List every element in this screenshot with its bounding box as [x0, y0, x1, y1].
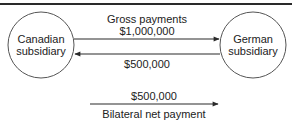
- right-node-label-1: German: [220, 33, 286, 45]
- left-node-label-1: Canadian: [8, 33, 74, 45]
- left-node-label-2: subsidiary: [8, 45, 74, 57]
- right-node-label-2: subsidiary: [220, 45, 286, 57]
- gross-forward-amount: $1,000,000: [97, 25, 197, 37]
- net-payment-label: Bilateral net payment: [84, 108, 224, 120]
- gross-payments-title: Gross payments: [97, 13, 197, 25]
- net-amount: $500,000: [104, 90, 204, 102]
- gross-reverse-amount: $500,000: [97, 58, 197, 70]
